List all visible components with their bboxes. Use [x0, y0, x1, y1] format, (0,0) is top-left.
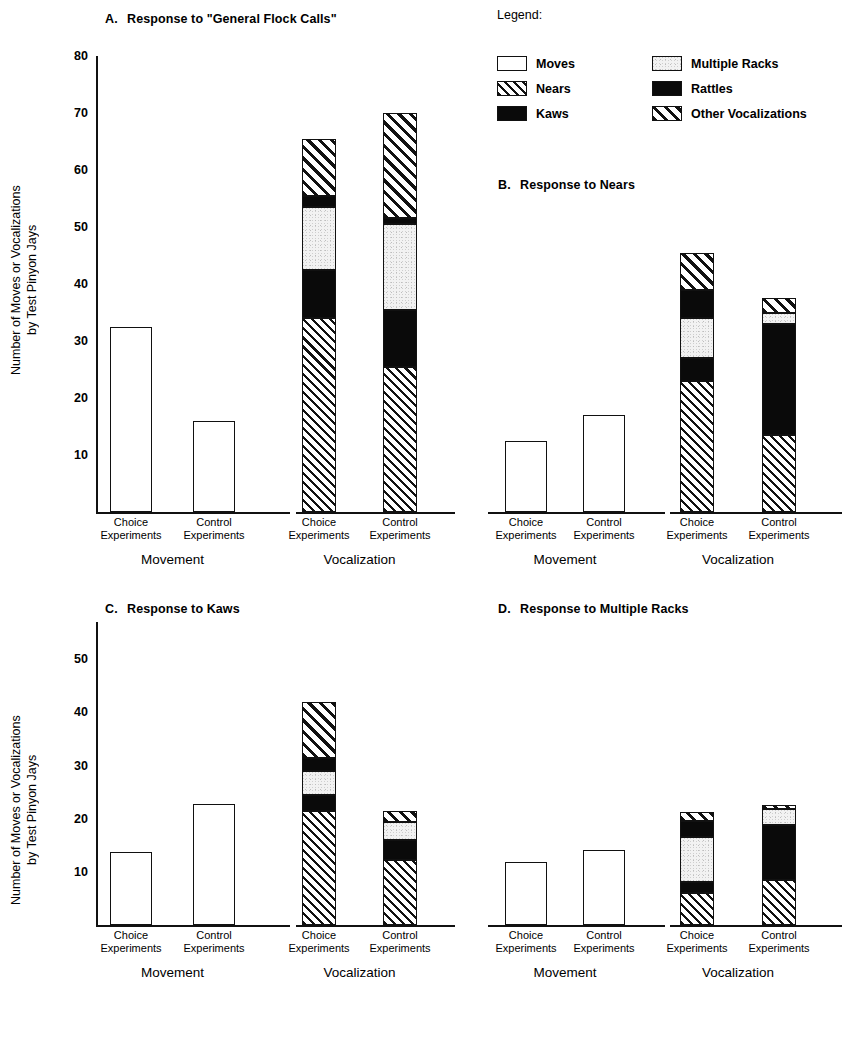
x-label-line2: Experiments — [495, 942, 556, 955]
x-label-line1: Control — [183, 516, 244, 529]
bar-d-vocalization-control — [762, 805, 796, 925]
bar-segment-nears — [680, 893, 714, 925]
y-tick-label-20: 20 — [62, 391, 88, 405]
x-label-line1: Choice — [288, 516, 349, 529]
bar-b-vocalization-choice — [680, 253, 714, 512]
baseline-vocalization — [296, 512, 455, 514]
x-tick-label-control: ControlExperiments — [748, 516, 809, 542]
bar-a-vocalization-control — [383, 113, 417, 512]
bar-segment-moves — [583, 415, 625, 512]
bar-c-movement-choice — [110, 852, 152, 925]
group-label-vocalization: Vocalization — [323, 965, 395, 980]
baseline-vocalization — [670, 512, 842, 514]
bar-segment-moves — [193, 421, 235, 512]
group-label-movement: Movement — [141, 965, 204, 980]
y-tick-label-50: 50 — [62, 220, 88, 234]
panel-b-letter: B. — [498, 178, 520, 192]
bar-b-vocalization-control — [762, 298, 796, 512]
x-label-line1: Control — [748, 929, 809, 942]
x-label-line2: Experiments — [369, 942, 430, 955]
y-tick-label-50: 50 — [62, 652, 88, 666]
x-tick-label-choice: ChoiceExperiments — [495, 929, 556, 955]
baseline-movement — [488, 925, 665, 927]
x-tick-label-control: ControlExperiments — [369, 516, 430, 542]
x-label-line2: Experiments — [748, 529, 809, 542]
panel-c-letter: C. — [105, 602, 127, 616]
x-label-line1: Choice — [495, 516, 556, 529]
bar-c-vocalization-control — [383, 811, 417, 925]
x-label-line1: Choice — [495, 929, 556, 942]
bar-segment-nears — [302, 318, 336, 512]
x-tick-label-choice: ChoiceExperiments — [666, 929, 727, 955]
bar-segment-kaws — [302, 270, 336, 318]
bar-segment-other-vocalizations — [302, 702, 336, 758]
bar-a-movement-control — [193, 421, 235, 512]
y-tick-label-60: 60 — [62, 163, 88, 177]
bar-b-movement-choice — [505, 441, 547, 512]
bar-segment-multiple-racks — [383, 822, 417, 840]
y-tick-label-10: 10 — [62, 865, 88, 879]
panel-b-title: B.Response to Nears — [498, 178, 635, 192]
y-tick-label-10: 10 — [62, 448, 88, 462]
bar-segment-rattles — [680, 821, 714, 837]
y-tick-label-40: 40 — [62, 277, 88, 291]
bar-segment-multiple-racks — [302, 771, 336, 795]
bar-segment-kaws — [383, 310, 417, 367]
bar-segment-rattles — [680, 290, 714, 319]
panel-d: D.Response to Multiple Racks ChoiceExper… — [470, 560, 857, 1060]
baseline-vocalization — [296, 925, 455, 927]
x-label-line1: Choice — [666, 929, 727, 942]
panel-c: C.Response to Kaws Number of Moves or Vo… — [0, 560, 470, 1060]
bar-segment-other-vocalizations — [383, 113, 417, 218]
x-tick-label-choice: ChoiceExperiments — [288, 929, 349, 955]
x-label-line1: Control — [369, 516, 430, 529]
bar-segment-kaws — [762, 324, 796, 435]
bar-segment-multiple-racks — [302, 207, 336, 270]
x-tick-label-control: ControlExperiments — [573, 516, 634, 542]
bar-segment-nears — [680, 381, 714, 512]
bar-segment-other-vocalizations — [762, 805, 796, 809]
panel-a-title-text: Response to "General Flock Calls" — [127, 12, 337, 26]
bar-segment-moves — [193, 804, 235, 925]
figure-root: Legend: Moves Nears Kaws Multiple Racks … — [0, 0, 857, 1060]
x-label-line2: Experiments — [288, 942, 349, 955]
x-label-line2: Experiments — [748, 942, 809, 955]
bar-segment-moves — [505, 862, 547, 925]
bar-c-movement-control — [193, 804, 235, 925]
x-label-line2: Experiments — [573, 942, 634, 955]
x-label-line2: Experiments — [666, 529, 727, 542]
bar-segment-moves — [505, 441, 547, 512]
y-axis-line — [96, 56, 98, 514]
x-label-line2: Experiments — [288, 529, 349, 542]
x-tick-label-choice: ChoiceExperiments — [100, 516, 161, 542]
x-label-line2: Experiments — [666, 942, 727, 955]
bar-segment-nears — [762, 435, 796, 512]
panel-b: B.Response to Nears ChoiceExperimentsCon… — [470, 0, 857, 560]
x-label-line1: Control — [183, 929, 244, 942]
baseline-vocalization — [670, 925, 842, 927]
panel-c-title: C.Response to Kaws — [105, 602, 240, 616]
x-label-line1: Control — [369, 929, 430, 942]
bar-b-movement-control — [583, 415, 625, 512]
x-label-line1: Control — [573, 929, 634, 942]
bar-segment-other-vocalizations — [680, 812, 714, 822]
bar-segment-other-vocalizations — [762, 298, 796, 312]
baseline-movement — [96, 512, 290, 514]
x-tick-label-choice: ChoiceExperiments — [666, 516, 727, 542]
bar-segment-nears — [383, 860, 417, 925]
bar-segment-other-vocalizations — [383, 811, 417, 823]
x-label-line2: Experiments — [183, 529, 244, 542]
group-label-vocalization: Vocalization — [702, 965, 774, 980]
bar-a-vocalization-choice — [302, 139, 336, 512]
x-label-line2: Experiments — [100, 529, 161, 542]
x-label-line1: Control — [748, 516, 809, 529]
y-tick-label-20: 20 — [62, 812, 88, 826]
bar-segment-nears — [383, 367, 417, 512]
x-label-line2: Experiments — [573, 529, 634, 542]
x-label-line1: Choice — [100, 929, 161, 942]
y-tick-label-70: 70 — [62, 106, 88, 120]
bar-segment-multiple-racks — [680, 318, 714, 358]
x-label-line2: Experiments — [369, 529, 430, 542]
panel-a-title: A.Response to "General Flock Calls" — [105, 12, 337, 26]
bar-segment-kaws — [302, 795, 336, 811]
